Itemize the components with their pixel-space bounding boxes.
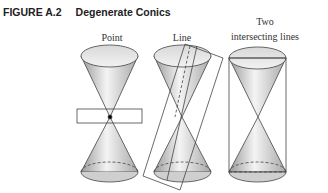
cone-point <box>77 45 142 182</box>
degenerate-conics-diagram <box>0 0 328 193</box>
cone-two-lines <box>229 47 286 182</box>
cone-line <box>143 44 223 190</box>
